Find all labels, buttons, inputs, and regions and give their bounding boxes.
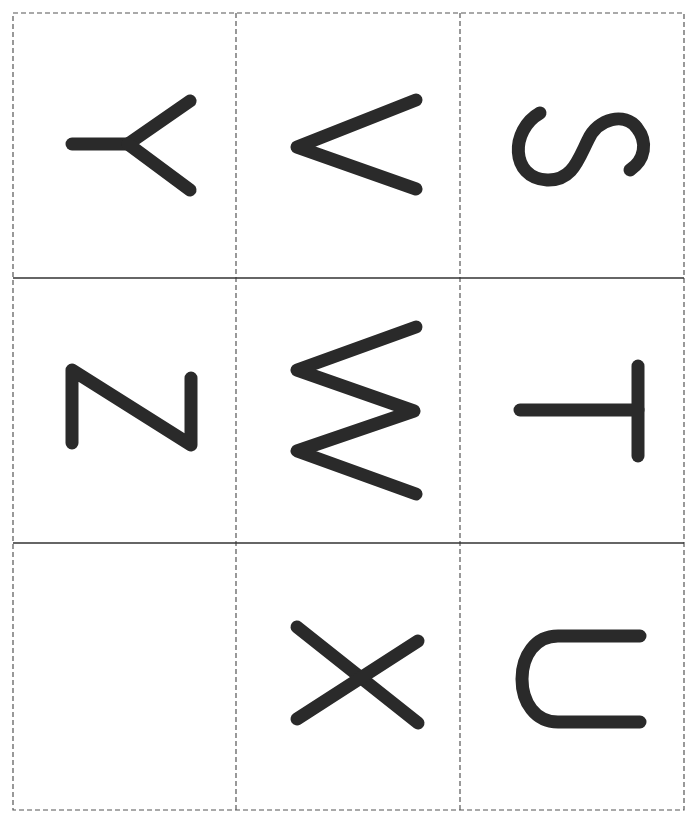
card-z: Z [13,278,236,543]
card-m: M [236,278,460,543]
letter-card-sheet: YVSZMTXU [0,0,696,818]
card-s: S [460,13,684,278]
card-blank [13,543,236,810]
card-u: U [460,543,684,810]
card-y: Y [13,13,236,278]
card-v: V [236,13,460,278]
card-x: X [236,543,460,810]
card-t: T [460,278,684,543]
